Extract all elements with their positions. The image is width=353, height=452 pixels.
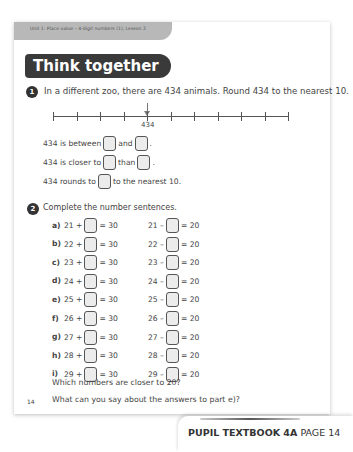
- right-result: = 20: [181, 314, 199, 323]
- right-expression: 21 –: [148, 221, 164, 230]
- left-result: = 30: [99, 239, 117, 248]
- row-label: c): [52, 257, 64, 269]
- left-expression: 22 +: [64, 239, 82, 248]
- right-expression: 26 –: [148, 314, 164, 323]
- footer-page: PAGE 14: [300, 427, 340, 438]
- answer-box[interactable]: [84, 237, 97, 252]
- number-line-tick: [147, 112, 148, 121]
- right-expression: 28 –: [148, 351, 164, 360]
- right-expression: 27 –: [148, 332, 164, 341]
- page-number: 14: [27, 398, 35, 405]
- left-expression: 24 +: [64, 276, 82, 285]
- answer-box[interactable]: [84, 311, 97, 326]
- number-sentence-row: b)22 += 30: [52, 237, 118, 252]
- answer-box[interactable]: [84, 348, 97, 363]
- number-sentence-row: a)21 += 30: [52, 218, 118, 233]
- number-sentence-row-right: 25 –= 20: [148, 292, 199, 307]
- question-2-prompt: Complete the number sentences.: [43, 203, 177, 212]
- footer-book: PUPIL TEXTBOOK 4A: [188, 427, 297, 438]
- left-expression: 25 +: [64, 295, 82, 304]
- right-expression: 25 –: [148, 295, 164, 304]
- number-sentence-row: g)27 += 30: [52, 330, 118, 345]
- row-label: b): [52, 238, 64, 250]
- left-result: = 30: [99, 314, 117, 323]
- answer-box[interactable]: [166, 330, 179, 345]
- number-sentence-row-right: 27 –= 20: [148, 330, 199, 345]
- unit-header-bar: Unit 1: Place value – 4-digit numbers (1…: [14, 22, 172, 40]
- number-sentence-row: d)24 += 30: [52, 274, 118, 289]
- row-label: a): [52, 220, 64, 232]
- right-expression: 23 –: [148, 258, 164, 267]
- right-result: = 20: [181, 258, 199, 267]
- answer-box[interactable]: [103, 136, 116, 151]
- sentence-closer: 434 is closer tothan.: [43, 155, 155, 170]
- number-line-label: 434: [141, 121, 154, 129]
- question-1-prompt: In a different zoo, there are 434 animal…: [44, 86, 349, 96]
- right-result: = 20: [181, 332, 199, 341]
- number-line-tick: [53, 112, 54, 121]
- number-sentence-row: f)26 += 30: [52, 311, 118, 326]
- number-line: [53, 116, 288, 117]
- question-2-badge: 2: [27, 203, 39, 215]
- left-expression: 27 +: [64, 332, 82, 341]
- answer-box[interactable]: [84, 255, 97, 270]
- footer-divider: [200, 418, 300, 420]
- answer-box[interactable]: [84, 292, 97, 307]
- number-sentence-row-right: 28 –= 20: [148, 348, 199, 363]
- question-1-badge: 1: [26, 86, 38, 98]
- left-result: = 30: [99, 258, 117, 267]
- answer-box[interactable]: [166, 255, 179, 270]
- row-label: f): [52, 313, 64, 325]
- answer-box[interactable]: [166, 218, 179, 233]
- right-result: = 20: [181, 276, 199, 285]
- number-line-tick: [241, 112, 242, 121]
- answer-box[interactable]: [137, 155, 150, 170]
- answer-box[interactable]: [166, 292, 179, 307]
- number-line-tick: [124, 112, 125, 121]
- row-label: e): [52, 294, 64, 306]
- right-result: = 20: [181, 239, 199, 248]
- sentence-between: 434 is betweenand.: [43, 136, 152, 151]
- number-sentence-row: e)25 += 30: [52, 292, 118, 307]
- number-sentence-row-right: 24 –= 20: [148, 274, 199, 289]
- left-result: = 30: [99, 351, 117, 360]
- answer-box[interactable]: [166, 274, 179, 289]
- number-line-tick: [100, 112, 101, 121]
- left-expression: 21 +: [64, 221, 82, 230]
- number-line-tick: [265, 112, 266, 121]
- right-result: = 20: [181, 351, 199, 360]
- answer-box[interactable]: [135, 136, 148, 151]
- number-line-tick: [218, 112, 219, 121]
- number-sentence-row-right: 21 –= 20: [148, 218, 199, 233]
- sentence-rounds: 434 rounds toto the nearest 10.: [43, 174, 181, 189]
- number-line-tick: [194, 112, 195, 121]
- section-title: Think together: [25, 54, 171, 78]
- answer-box[interactable]: [84, 218, 97, 233]
- answer-box[interactable]: [166, 237, 179, 252]
- number-line-tick: [288, 112, 289, 121]
- answer-box[interactable]: [166, 311, 179, 326]
- unit-label: Unit 1: Place value – 4-digit numbers (1…: [30, 26, 146, 31]
- answer-box[interactable]: [166, 348, 179, 363]
- number-sentence-row: c)23 += 30: [52, 255, 118, 270]
- right-result: = 20: [181, 295, 199, 304]
- number-sentence-row: h)28 += 30: [52, 348, 118, 363]
- number-line-tick: [77, 112, 78, 121]
- left-result: = 30: [99, 276, 117, 285]
- row-label: h): [52, 350, 64, 362]
- followup-question-1: Which numbers are closer to 20?: [52, 378, 181, 387]
- answer-box[interactable]: [103, 155, 116, 170]
- followup-question-2: What can you say about the answers to pa…: [52, 395, 240, 404]
- answer-box[interactable]: [98, 174, 111, 189]
- row-label: g): [52, 331, 64, 343]
- left-expression: 23 +: [64, 258, 82, 267]
- left-expression: 26 +: [64, 314, 82, 323]
- answer-box[interactable]: [84, 330, 97, 345]
- left-result: = 30: [99, 332, 117, 341]
- right-expression: 22 –: [148, 239, 164, 248]
- row-label: d): [52, 275, 64, 287]
- left-expression: 28 +: [64, 351, 82, 360]
- number-sentence-row-right: 22 –= 20: [148, 237, 199, 252]
- right-result: = 20: [181, 369, 199, 378]
- answer-box[interactable]: [84, 274, 97, 289]
